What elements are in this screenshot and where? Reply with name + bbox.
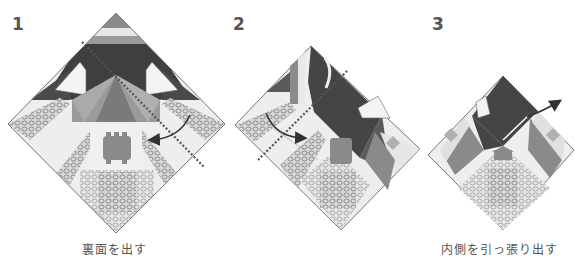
- step-1-number: 1: [12, 14, 24, 34]
- step-3-caption: 内側を引っ張り出す: [441, 240, 558, 257]
- step-2-number: 2: [233, 14, 245, 34]
- step-3-illustration: [428, 76, 574, 230]
- step-1-illustration: [0, 0, 240, 240]
- origami-diagram: [0, 0, 575, 263]
- step-3-number: 3: [432, 14, 444, 34]
- step-1-caption: 裏面を出す: [82, 240, 147, 257]
- step-2-illustration: [235, 46, 420, 230]
